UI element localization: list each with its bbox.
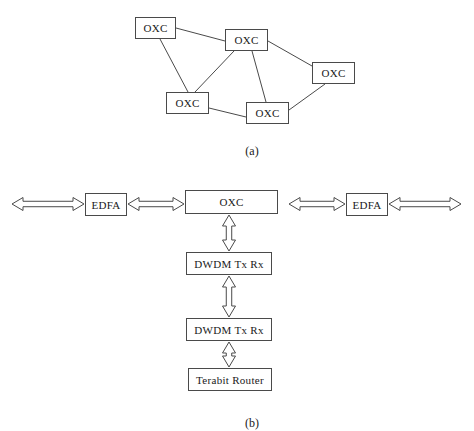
- node-label: OXC: [234, 34, 258, 46]
- arrow-router-to-dwdm-lower: [223, 342, 236, 367]
- node-dwdm-lower: DWDM Tx Rx: [186, 318, 272, 341]
- node-label: OXC: [255, 107, 279, 119]
- arrow-edfa-left-to-oxc: [128, 198, 184, 211]
- arrow-dwdm-upper-to-lower: [223, 276, 236, 317]
- arrow-far-right: [389, 198, 461, 211]
- node-label: OXC: [143, 22, 167, 34]
- node-label: EDFA: [352, 199, 381, 211]
- caption-panel-b: (b): [232, 416, 272, 431]
- node-n4: OXC: [166, 92, 209, 114]
- node-n2: OXC: [225, 29, 268, 51]
- link-n1-n2: [176, 28, 225, 41]
- caption-panel-a: (a): [232, 144, 272, 159]
- node-edfa-left: EDFA: [85, 193, 127, 216]
- node-dwdm-upper: DWDM Tx Rx: [186, 252, 272, 275]
- node-oxc-center: OXC: [185, 190, 278, 214]
- link-n2-n4: [195, 51, 234, 92]
- link-n2-n5: [252, 51, 266, 102]
- arrow-oxc-to-dwdm-upper: [223, 215, 236, 251]
- node-n5: OXC: [246, 102, 289, 124]
- link-n1-n4: [160, 39, 188, 92]
- arrow-far-left: [12, 198, 84, 211]
- node-label: DWDM Tx Rx: [194, 258, 263, 270]
- node-n3: OXC: [312, 62, 355, 84]
- node-label: OXC: [219, 196, 243, 208]
- node-label: Terabit Router: [196, 374, 264, 386]
- node-label: EDFA: [91, 199, 120, 211]
- node-edfa-right: EDFA: [346, 193, 388, 216]
- node-label: OXC: [175, 97, 199, 109]
- node-n1: OXC: [135, 17, 176, 39]
- node-terabit-router: Terabit Router: [188, 368, 272, 391]
- link-n5-n3: [289, 84, 325, 110]
- link-n4-n5: [209, 108, 246, 117]
- node-label: DWDM Tx Rx: [194, 324, 263, 336]
- node-label: OXC: [321, 67, 345, 79]
- arrow-oxc-to-edfa-right: [289, 198, 345, 211]
- link-n2-n3: [268, 41, 312, 66]
